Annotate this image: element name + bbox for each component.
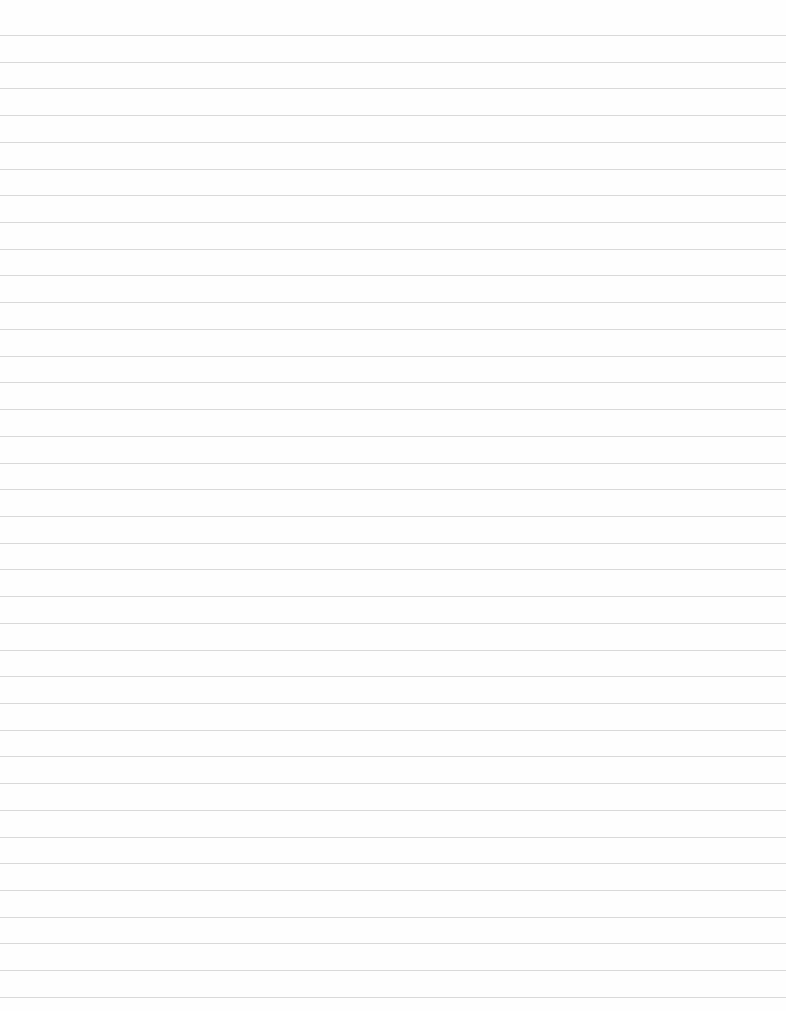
ruled-line	[0, 88, 786, 89]
show-through-text	[0, 0, 260, 6]
ruled-line	[0, 35, 786, 36]
ruled-line	[0, 409, 786, 410]
ruled-line	[0, 943, 786, 944]
ruled-line	[0, 890, 786, 891]
ruled-line	[0, 302, 786, 303]
ruled-line	[0, 115, 786, 116]
ruled-line	[0, 837, 786, 838]
ruled-line	[0, 863, 786, 864]
ruled-line	[0, 810, 786, 811]
ruled-line	[0, 783, 786, 784]
ruled-line	[0, 676, 786, 677]
ruled-line	[0, 543, 786, 544]
ruled-line	[0, 596, 786, 597]
ruled-line	[0, 997, 786, 998]
ruled-line	[0, 382, 786, 383]
lined-paper-page	[0, 0, 786, 1011]
ruled-line	[0, 436, 786, 437]
ruled-line	[0, 569, 786, 570]
ruled-line	[0, 356, 786, 357]
ruled-line	[0, 730, 786, 731]
ruled-line	[0, 623, 786, 624]
ruled-line	[0, 195, 786, 196]
ruled-line	[0, 249, 786, 250]
ruled-line	[0, 703, 786, 704]
ruled-line	[0, 275, 786, 276]
ruled-line	[0, 917, 786, 918]
ruled-line	[0, 756, 786, 757]
ruled-line	[0, 222, 786, 223]
ruled-line	[0, 62, 786, 63]
ruled-line	[0, 142, 786, 143]
ruled-line	[0, 650, 786, 651]
ruled-line	[0, 970, 786, 971]
ruled-line	[0, 463, 786, 464]
ruled-line	[0, 516, 786, 517]
ruled-line	[0, 169, 786, 170]
ruled-line	[0, 329, 786, 330]
ruled-line	[0, 489, 786, 490]
